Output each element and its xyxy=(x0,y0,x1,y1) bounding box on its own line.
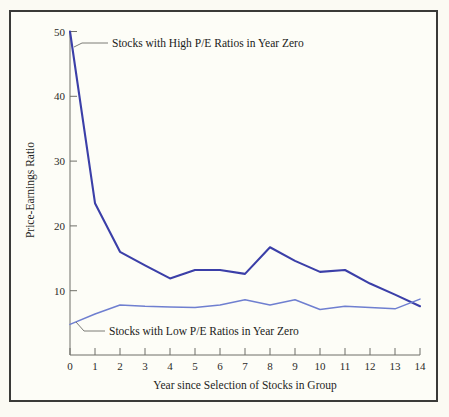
x-tick-label: 1 xyxy=(92,360,98,372)
y-tick-label: 50 xyxy=(54,26,66,38)
y-tick-label: 40 xyxy=(54,90,66,102)
y-tick-label: 10 xyxy=(54,285,66,297)
x-tick-label: 11 xyxy=(340,360,351,372)
y-tick-label: 30 xyxy=(54,155,66,167)
y-tick-label: 20 xyxy=(54,220,66,232)
x-tick-label: 4 xyxy=(167,360,173,372)
x-tick-label: 13 xyxy=(390,360,402,372)
x-axis-ticks xyxy=(70,348,420,355)
annotation-leader-high xyxy=(74,43,108,47)
x-tick-label: 6 xyxy=(217,360,223,372)
x-axis-title: Year since Selection of Stocks in Group xyxy=(153,379,337,392)
x-tick-label: 7 xyxy=(242,360,248,372)
x-axis-tick-labels: 0 1 2 3 4 5 6 7 8 9 10 11 12 13 14 xyxy=(67,360,426,372)
x-tick-label: 2 xyxy=(117,360,123,372)
x-tick-label: 10 xyxy=(315,360,327,372)
x-tick-label: 0 xyxy=(67,360,73,372)
series-line-low-pe xyxy=(70,299,420,324)
x-tick-label: 9 xyxy=(292,360,298,372)
series-line-high-pe xyxy=(70,32,420,307)
x-tick-label: 8 xyxy=(267,360,273,372)
x-tick-label: 5 xyxy=(192,360,198,372)
x-tick-label: 12 xyxy=(365,360,376,372)
x-tick-label: 3 xyxy=(142,360,148,372)
x-tick-label: 14 xyxy=(415,360,427,372)
annotation-leader-low xyxy=(76,322,105,331)
chart-page: 50 40 30 20 10 xyxy=(0,0,449,417)
y-axis-tick-labels: 50 40 30 20 10 xyxy=(54,26,66,297)
line-chart: 50 40 30 20 10 xyxy=(0,0,449,417)
annotation-label-low-pe: Stocks with Low P/E Ratios in Year Zero xyxy=(109,325,299,337)
annotation-label-high-pe: Stocks with High P/E Ratios in Year Zero xyxy=(112,37,304,50)
y-axis-title: Price-Earnings Ratio xyxy=(24,142,37,238)
plot-area: 50 40 30 20 10 xyxy=(0,0,449,417)
